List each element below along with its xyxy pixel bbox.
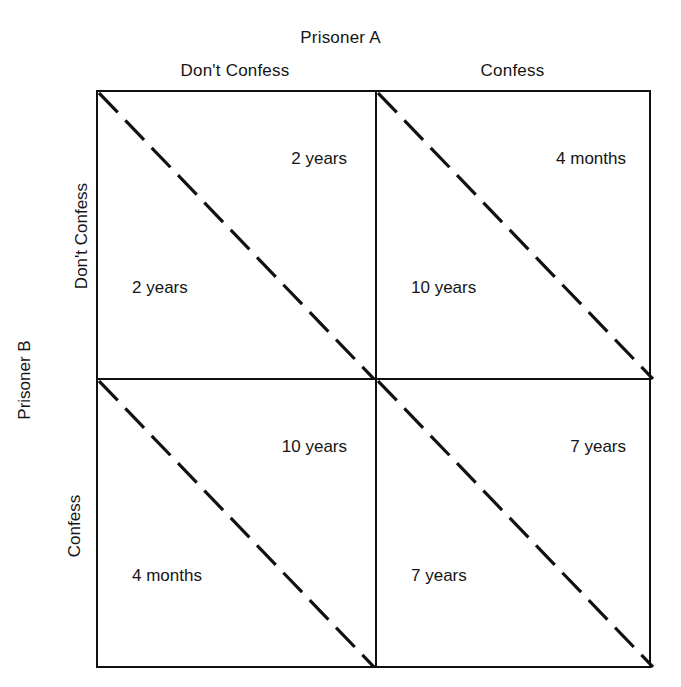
column-header-dont-confess: Don't Confess — [96, 61, 374, 81]
payoff-matrix-figure: Prisoner A Don't Confess Confess Prisone… — [0, 0, 681, 687]
payoff-lower-left: 4 months — [132, 566, 202, 586]
payoff-upper-right: 10 years — [282, 437, 347, 457]
column-axis-title: Prisoner A — [0, 28, 681, 48]
payoff-lower-left: 7 years — [411, 566, 467, 586]
matrix-cell-confess-confess: 7 years 7 years — [377, 380, 654, 668]
matrix-grid: 2 years 2 years 4 months 10 years 10 yea… — [96, 90, 651, 668]
row-axis-title: Prisoner B — [15, 295, 35, 465]
payoff-upper-right: 4 months — [556, 149, 626, 169]
payoff-upper-right: 7 years — [570, 437, 626, 457]
diagonal-divider-icon — [98, 380, 375, 668]
matrix-cell-dontconfess-confess: 4 months 10 years — [377, 92, 654, 380]
diagonal-divider-icon — [377, 92, 654, 380]
payoff-lower-left: 2 years — [132, 278, 188, 298]
diagonal-divider-icon — [98, 92, 375, 380]
payoff-upper-right: 2 years — [291, 149, 347, 169]
column-header-confess: Confess — [374, 61, 651, 81]
matrix-cell-confess-dontconfess: 10 years 4 months — [98, 380, 375, 668]
matrix-cell-dontconfess-dontconfess: 2 years 2 years — [98, 92, 375, 380]
row-header-dont-confess: Don't Confess — [72, 151, 92, 321]
row-header-confess: Confess — [65, 441, 85, 611]
diagonal-divider-icon — [377, 380, 654, 668]
payoff-lower-left: 10 years — [411, 278, 476, 298]
